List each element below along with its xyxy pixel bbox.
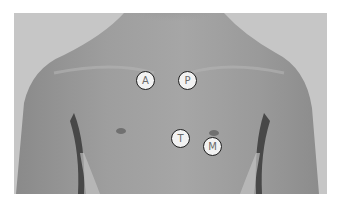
marker-label: M [208,142,217,152]
marker-label: A [142,76,149,86]
mitral-marker: M [203,137,222,156]
marker-label: P [184,76,190,86]
chest-photograph: A P T M [14,13,327,194]
tricuspid-marker: T [171,129,190,148]
marker-label: T [177,134,183,144]
torso-illustration [14,13,327,194]
pulmonic-marker: P [178,71,197,90]
aortic-marker: A [136,71,155,90]
